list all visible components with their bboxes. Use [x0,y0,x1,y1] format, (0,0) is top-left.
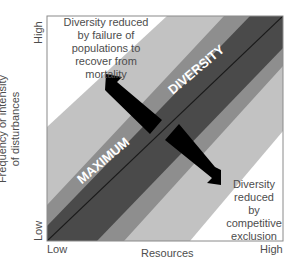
annotation-line: mortality [49,68,163,81]
annotation-line: reduced [224,191,284,204]
annotation-line: by [224,204,284,217]
annotation-line: Diversity [224,178,284,191]
x-axis-high: High [260,243,283,255]
annotation-line: competitive [224,217,284,230]
y-axis-label-line2: of disturbances [9,49,22,209]
annotation-line: populations to [49,42,163,55]
x-axis-low: Low [47,243,67,255]
annotation-line: recover from [49,55,163,68]
annotation-bottom-right: Diversity reduced by competitive exclusi… [224,178,284,243]
annotation-top-left: Diversity reduced by failure of populati… [49,16,163,81]
annotation-line: exclusion [224,230,284,243]
y-axis-label-line1: Frequency or intensity [0,49,9,209]
x-axis-label: Resources [141,247,194,259]
annotation-line: by failure of [49,29,163,42]
y-axis-low: Low [32,221,44,241]
y-axis-label: Frequency or intensity of disturbances [0,49,22,209]
annotation-line: Diversity reduced [49,16,163,29]
y-axis-high: High [32,21,44,44]
